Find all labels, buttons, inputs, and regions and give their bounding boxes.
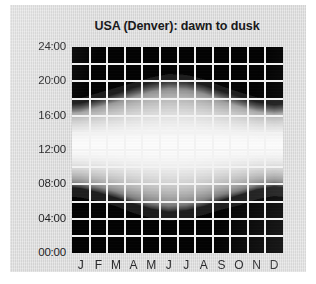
chart-panel: USA (Denver): dawn to dusk 00:0004:0008:… xyxy=(10,5,306,272)
chart-title: USA (Denver): dawn to dusk xyxy=(62,19,292,33)
x-axis-tick-label: M xyxy=(107,258,125,272)
y-axis-tick-label: 12:00 xyxy=(18,143,66,155)
y-axis-tick-label: 04:00 xyxy=(18,212,66,224)
x-axis-tick-label: A xyxy=(195,258,213,272)
x-axis-tick-label: D xyxy=(265,258,283,272)
y-axis-tick-label: 00:00 xyxy=(18,246,66,258)
y-axis-tick-label: 08:00 xyxy=(18,177,66,189)
x-axis-tick-label: M xyxy=(142,258,160,272)
y-axis-tick-label: 20:00 xyxy=(18,74,66,86)
y-axis-tick-label: 16:00 xyxy=(18,109,66,121)
y-axis-tick-label: 24:00 xyxy=(18,40,66,52)
x-axis-tick-label: N xyxy=(248,258,266,272)
x-axis-tick-label: O xyxy=(230,258,248,272)
x-axis-tick-label: F xyxy=(89,258,107,272)
x-axis-tick-label: S xyxy=(212,258,230,272)
heatmap-plot-area xyxy=(72,47,283,253)
chart-screenshot: USA (Denver): dawn to dusk 00:0004:0008:… xyxy=(0,0,316,284)
x-axis-tick-label: J xyxy=(72,258,90,272)
heatmap-canvas xyxy=(72,47,283,253)
x-axis-tick-label: J xyxy=(160,258,178,272)
x-axis-tick-label: J xyxy=(177,258,195,272)
x-axis-tick-label: A xyxy=(125,258,143,272)
